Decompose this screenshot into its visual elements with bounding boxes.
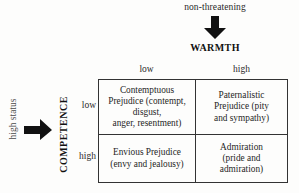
quadrant-cell-admiration: Admiration (pride and admiration) bbox=[196, 135, 287, 182]
cell-line: Admiration bbox=[220, 142, 263, 153]
status-pole-label: high status bbox=[8, 84, 18, 154]
warmth-pole-label: non-threatening bbox=[150, 2, 280, 13]
stereotype-content-model-diagram: non-threatening WARMTH low high high sta… bbox=[0, 0, 299, 193]
cell-line: Prejudice (pity bbox=[214, 101, 269, 112]
cell-line: anger, resentment) bbox=[113, 118, 182, 129]
row-header-high: high bbox=[72, 151, 96, 161]
row-header-low: low bbox=[72, 100, 96, 110]
cell-line: Envious Prejudice bbox=[113, 147, 181, 158]
right-arrow-icon bbox=[24, 119, 53, 141]
column-header-high: high bbox=[195, 64, 288, 74]
column-header-low: low bbox=[98, 64, 195, 74]
cell-line: disgust, bbox=[133, 107, 162, 118]
quadrant-cell-envious-prejudice: Envious Prejudice (envy and jealousy) bbox=[99, 135, 196, 182]
cell-line: (pride and bbox=[223, 153, 261, 164]
quadrant-cell-contemptuous-prejudice: Contemptuous Prejudice (contempt, disgus… bbox=[99, 80, 196, 135]
cell-line: Paternalistic bbox=[219, 90, 265, 101]
competence-axis-title: COMPETENCE bbox=[58, 90, 69, 180]
warmth-axis-title: WARMTH bbox=[150, 42, 280, 53]
cell-line: (envy and jealousy) bbox=[110, 159, 183, 170]
cell-line: Contemptuous bbox=[120, 85, 174, 96]
quadrant-matrix: Contemptuous Prejudice (contempt, disgus… bbox=[98, 79, 288, 183]
cell-line: and sympathy) bbox=[214, 113, 269, 124]
down-arrow-icon bbox=[200, 16, 230, 40]
cell-line: admiration) bbox=[220, 164, 263, 175]
quadrant-cell-paternalistic-prejudice: Paternalistic Prejudice (pity and sympat… bbox=[196, 80, 287, 135]
cell-line: Prejudice (contempt, bbox=[108, 96, 185, 107]
